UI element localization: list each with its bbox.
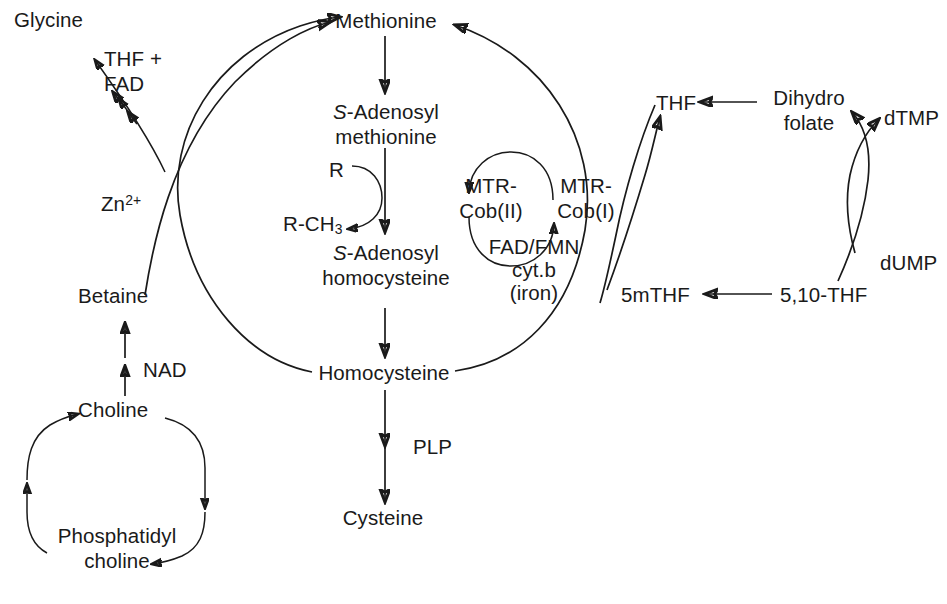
sam-line2: methionine — [333, 124, 439, 149]
node-cysteine: Cysteine — [343, 505, 424, 530]
phosphatidyl-choline-line1: Phosphatidyl — [58, 523, 177, 548]
zinc-base: Zn — [101, 192, 125, 215]
edge-5mthf-to-thf — [607, 117, 660, 290]
sah-italic-s: S — [333, 241, 347, 264]
edge-dump-to-dtmp — [848, 119, 879, 253]
mtr-cob1-line1: MTR- — [557, 173, 615, 198]
node-dihydrofolate: Dihydro folate — [773, 85, 844, 135]
node-betaine: Betaine — [78, 283, 148, 308]
node-mtr-cob1: MTR- Cob(I) — [557, 173, 615, 223]
node-r-ch3: R-CH3 — [283, 211, 343, 242]
node-mtr-cob2: MTR- Cob(II) — [459, 173, 522, 223]
node-510-thf: 5,10-THF — [780, 282, 867, 307]
mtr-cob2-line2: Cob(II) — [459, 198, 522, 223]
thf-fad-line1: THF + — [104, 46, 162, 71]
mtr-cob2-line1: MTR- — [459, 173, 522, 198]
node-s-adenosyl-homocysteine: S-Adenosyl homocysteine — [322, 240, 450, 290]
thf-fad-line2: FAD — [104, 71, 162, 96]
node-plp: PLP — [413, 434, 452, 459]
cofactors-line1: FAD/FMN — [489, 235, 580, 258]
cofactors-line3: (iron) — [489, 281, 580, 304]
sam-line1: S-Adenosyl — [333, 99, 439, 124]
edge-r-to-rch3 — [348, 166, 382, 229]
cofactors-line2: cyt.b — [489, 258, 580, 281]
node-5m-thf: 5mTHF — [621, 282, 690, 307]
node-thf-fad: THF + FAD — [104, 46, 162, 96]
node-cofactors: FAD/FMN cyt.b (iron) — [489, 235, 580, 304]
edge-betaine-to-methionine — [145, 22, 330, 295]
edge-homocysteine-to-methionine-left — [178, 17, 340, 372]
node-phosphatidyl-choline: Phosphatidyl choline — [58, 523, 177, 573]
node-thf: THF — [656, 90, 696, 115]
phosphatidyl-choline-line2: choline — [58, 548, 177, 573]
node-s-adenosyl-methionine: S-Adenosyl methionine — [333, 99, 439, 149]
node-homocysteine: Homocysteine — [318, 360, 449, 385]
dihydrofolate-line1: Dihydro — [773, 85, 844, 110]
sah-line1: S-Adenosyl — [322, 240, 450, 265]
sam-italic-s: S — [333, 100, 347, 123]
node-nad: NAD — [143, 357, 187, 382]
rch3-base: R-CH — [283, 212, 335, 235]
node-choline: Choline — [78, 397, 148, 422]
mtr-cob1-line2: Cob(I) — [557, 198, 615, 223]
node-zinc: Zn2+ — [101, 188, 141, 216]
dihydrofolate-line2: folate — [773, 110, 844, 135]
node-glycine: Glycine — [14, 7, 83, 32]
node-r: R — [329, 157, 344, 182]
zinc-charge: 2+ — [125, 192, 141, 208]
sah-line2: homocysteine — [322, 265, 450, 290]
node-dump: dUMP — [880, 250, 937, 275]
pathway-diagram: Glycine THF + FAD Zn2+ Betaine NAD Choli… — [0, 0, 947, 604]
rch3-sub: 3 — [335, 221, 343, 237]
node-dtmp: dTMP — [884, 105, 939, 130]
node-methionine: Methionine — [335, 8, 436, 33]
